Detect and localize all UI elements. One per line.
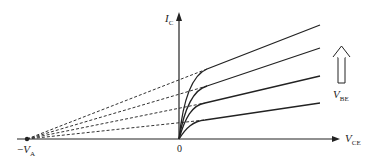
- early-voltage-point: [25, 137, 29, 141]
- origin-label: 0: [177, 143, 182, 154]
- curve-vbe-4: [179, 25, 320, 139]
- vbe-label: VBE: [333, 88, 349, 103]
- y-axis-label: IC: [164, 12, 174, 27]
- curve-vbe-1: [179, 103, 320, 139]
- x-axis-arrow-icon: [332, 136, 340, 142]
- bjt-output-diagram: IC VCE 0 −VA VBE: [0, 0, 368, 163]
- early-voltage-label: −VA: [17, 143, 35, 158]
- dashed-line-3: [27, 103, 205, 139]
- characteristic-curves: [179, 25, 320, 139]
- vbe-increase-arrow-icon: [333, 46, 350, 83]
- dashed-line-4: [27, 120, 205, 139]
- curve-vbe-2: [179, 76, 320, 139]
- curve-vbe-3: [179, 48, 320, 139]
- y-axis-arrow-icon: [176, 12, 182, 21]
- x-axis-label: VCE: [345, 132, 361, 147]
